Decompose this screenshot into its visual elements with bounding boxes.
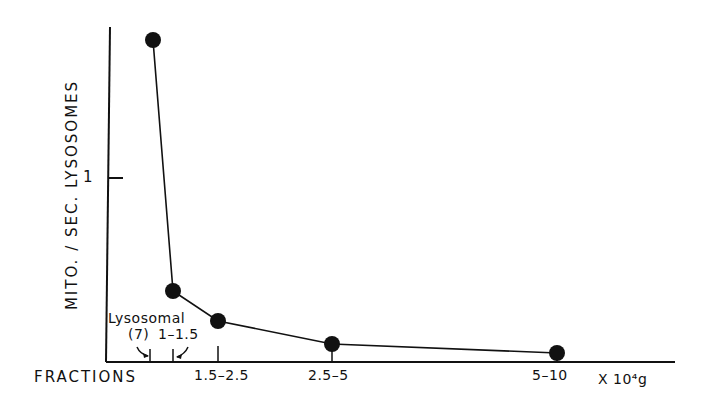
y-axis-label: MITO. / SEC. LYSOSOMES <box>63 80 81 310</box>
data-point <box>145 32 161 48</box>
lysosomal-1-1.5-label: 1–1.5 <box>158 326 199 342</box>
data-point <box>549 345 565 361</box>
arrow-1-1.5 <box>177 347 188 357</box>
data-line <box>153 40 557 353</box>
arrow-7 <box>137 347 148 356</box>
data-point <box>165 283 181 299</box>
x-axis-label: FRACTIONS <box>34 368 137 386</box>
lysosomal-7-label: (7) <box>128 326 149 342</box>
chart-canvas <box>0 0 710 417</box>
data-point <box>210 313 226 329</box>
x-tick-label-1.5-2.5: 1.5–2.5 <box>194 367 249 383</box>
x-tick-label-2.5-5: 2.5–5 <box>308 367 349 383</box>
x-tick-label-5-10: 5–10 <box>532 367 568 383</box>
x-unit-label: X 10⁴g <box>598 371 647 387</box>
data-point <box>324 336 340 352</box>
y-tick-label: 1 <box>83 168 93 186</box>
lysosomal-label: Lysosomal <box>108 310 185 326</box>
